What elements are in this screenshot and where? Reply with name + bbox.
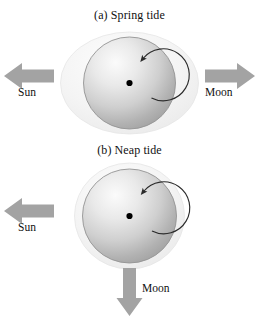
- caption-neap-tide: (b) Neap tide: [0, 143, 259, 157]
- label-sun-spring: Sun: [18, 86, 36, 99]
- label-moon-neap: Moon: [142, 282, 169, 295]
- neap-earth-center-dot: [126, 213, 132, 219]
- tides-figure: (a) Spring tide (b) Neap tide Sun Moon S…: [0, 0, 259, 320]
- label-moon-spring: Moon: [205, 86, 232, 99]
- caption-spring-tide: (a) Spring tide: [0, 8, 259, 22]
- tides-illustration: [0, 0, 259, 320]
- spring-tide-panel: [4, 32, 255, 134]
- spring-earth-center-dot: [126, 80, 132, 86]
- label-sun-neap: Sun: [18, 221, 36, 234]
- neap-moon-arrow: [117, 268, 143, 316]
